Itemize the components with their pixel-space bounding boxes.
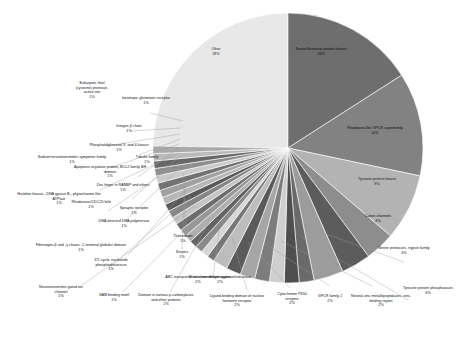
slice-label-ionotropic-glutamate-receptor: Ionotropic glutamate receptor 1%	[117, 96, 175, 105]
slice-label-cyclic-nucleotide-phosphodiesterase: 3'5'-cyclic nucleotide phosphodiesterase…	[84, 258, 138, 272]
slice-label-gpcr-family-2: GPCR family 2 2%	[313, 294, 347, 303]
slice-label-tyrosine-protein-kinase: Tyrosine protein kinase 9%	[345, 177, 409, 186]
slice-label-serine-proteases-trypsin-family: Serine proteases, trypsin family 4%	[361, 246, 447, 255]
slice-label-neutral-zinc-metallopeptidases: Neutral zinc metallopeptidases, zinc-bin…	[350, 294, 412, 308]
slice-label-serine-threonine-protein-kinase: Serine/threonine protein kinase 18%	[288, 47, 354, 56]
slice-label-dna-directed-dna-polymerase: DNA-directed DNA polymerase 1%	[85, 219, 163, 228]
slice-label-bcl2-family-bh-domain: Apoptosis regulator protein, BCL2 family…	[68, 165, 152, 179]
pie-slice	[153, 13, 288, 148]
slice-label-serpins: Serpins 1%	[166, 250, 198, 259]
slice-label-histidine-kinase-dna-gyrase-b-phytochrome-like-atpase: Histidine kinase-, DNA gyrase B-, phytoc…	[14, 192, 104, 206]
slice-label-sodium-neurotransmitter-symporter-family: Sodium:neurotransmitter symporter family…	[32, 155, 112, 164]
slice-label-phosphatidylinositol-3-4-kinase: Phosphatidylinositol 3- and 4-kinase 1%	[80, 143, 158, 152]
slice-label-zinc-finger-ranbp-and-others: Zinc finger in RANBP and others 1%	[84, 183, 162, 192]
slice-label-thioredoxin: Thioredoxin 1%	[164, 234, 202, 243]
slice-label-fibrinogen-c-terminal-globular-domain: Fibrinogen-β and -γ chains, C-terminal g…	[31, 243, 131, 252]
pie-chart: Other 28% Serine/threonine protein kinas…	[0, 0, 465, 339]
slice-label-sam-binding-motif: SAM binding motif 1%	[93, 293, 135, 302]
slice-label-other: Other 28%	[194, 47, 238, 56]
slice-label-tubulin-family: Tubulin family 1%	[128, 155, 166, 164]
slice-label-abc-transporter-transmembrane-region: ABC transporter, transmembrane region 2%	[163, 275, 233, 284]
slice-label-neurotransmitter-gated-ion-channel: Neurotransmitter-gated ion channel 1%	[35, 285, 87, 299]
slice-label-cytochrome-p450-enzyme: Cytochrome P450 enzyme 2%	[273, 292, 311, 306]
slice-label-domain-in-various-p-carboxylases: Domain in various p-carboxylases and oth…	[138, 293, 194, 307]
slice-label-cation-channels: Cation channels 4%	[352, 214, 404, 223]
slice-label-eukaryotic-thiol-cysteine-protease-active-site: Eukaryotic thiol (cysteine) protease, ac…	[73, 81, 111, 100]
slice-label-ligand-binding-domain-nuclear-hormone-receptor: Ligand-binding domain of nuclear hormone…	[203, 294, 271, 308]
slice-label-rhodopsin-like-gpcr-superfamily: Rhodopsin-like GPCR superfamily 14%	[340, 126, 410, 135]
slice-label-integrin-beta-chain: Integrin β chain 1%	[113, 124, 145, 133]
slice-label-synaptic-receptor: Synaptic receptor 1%	[110, 206, 158, 215]
